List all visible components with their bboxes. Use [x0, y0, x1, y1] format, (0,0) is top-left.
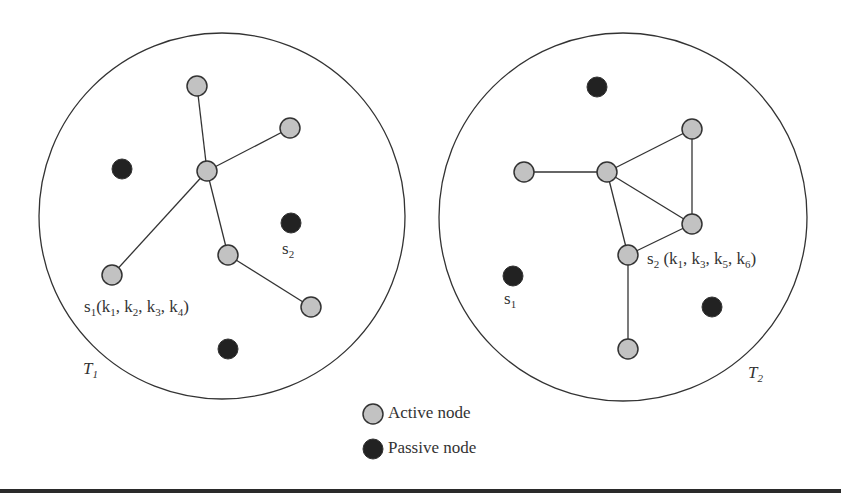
bottom-rule — [0, 489, 841, 493]
legend-active-icon — [363, 404, 383, 424]
s2-base: s — [282, 239, 289, 258]
legend-active-label: Active node — [388, 404, 471, 421]
s2-base: s — [647, 249, 654, 268]
region-T1 — [39, 33, 405, 399]
t1-sub: 1 — [92, 368, 98, 380]
active-node-b4 — [618, 339, 638, 359]
keys-close: ) — [751, 249, 757, 268]
keys-close: ) — [183, 297, 189, 316]
active-node-b2 — [682, 119, 702, 139]
passive-node-p1 — [112, 159, 132, 179]
edge — [228, 255, 311, 307]
active-node-s2 — [618, 245, 638, 265]
edge — [607, 172, 692, 224]
s1-base: s — [84, 297, 91, 316]
t2-region-label: T2 — [748, 364, 763, 384]
passive-node-s2 — [281, 213, 301, 233]
active-node-a3 — [218, 245, 238, 265]
edge — [207, 171, 228, 255]
keys-open: (k — [659, 249, 677, 268]
passive-node-p2 — [702, 297, 722, 317]
s1-sub: 1 — [511, 298, 517, 310]
keys-sep: , k — [706, 249, 723, 268]
active-node-a4 — [301, 297, 321, 317]
s1-base: s — [504, 289, 511, 308]
keys-open: (k — [96, 297, 110, 316]
keys-sep: , k — [683, 249, 700, 268]
edge — [112, 171, 207, 275]
passive-node-p1 — [587, 77, 607, 97]
passive-node-p2 — [218, 339, 238, 359]
keys-sep: , k — [138, 297, 155, 316]
edge — [197, 86, 207, 171]
edge — [607, 172, 628, 255]
edge — [607, 129, 692, 172]
keys-sep: , k — [116, 297, 133, 316]
t1-s1-label: s1(k1, k2, k3, k4) — [84, 298, 189, 318]
active-node-hub — [597, 162, 617, 182]
t2-s2-label: s2 (k1, k3, k5, k6) — [647, 250, 756, 270]
t1-s2-label: s2 — [282, 240, 294, 260]
keys-sep: , k — [728, 249, 745, 268]
t2-sub: 2 — [757, 372, 763, 384]
active-node-a2 — [280, 118, 300, 138]
active-node-hub — [197, 161, 217, 181]
active-node-s1 — [102, 265, 122, 285]
legend-passive-label: Passive node — [388, 439, 476, 456]
keys-sep: , k — [161, 297, 178, 316]
active-node-b1 — [514, 162, 534, 182]
region-T2 — [439, 33, 807, 401]
legend-markers — [363, 404, 383, 459]
edge — [207, 128, 290, 171]
t1-region-label: T1 — [83, 360, 98, 380]
legend-passive-icon — [363, 439, 383, 459]
passive-node-s1 — [503, 266, 523, 286]
t2-s1-label: s1 — [504, 290, 516, 310]
s2-sub: 2 — [289, 248, 295, 260]
active-node-b3 — [682, 214, 702, 234]
active-node-a1 — [187, 76, 207, 96]
